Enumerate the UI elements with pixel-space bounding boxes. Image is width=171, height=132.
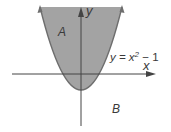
parabola-diagram: y x A B y = x2 − 1 bbox=[0, 0, 171, 132]
region-a-label: A bbox=[57, 25, 66, 39]
region-b-label: B bbox=[112, 102, 120, 116]
equation-tail: − 1 bbox=[139, 51, 159, 63]
equation-base: y = x bbox=[109, 51, 136, 63]
curve-equation-label: y = x2 − 1 bbox=[109, 50, 159, 63]
